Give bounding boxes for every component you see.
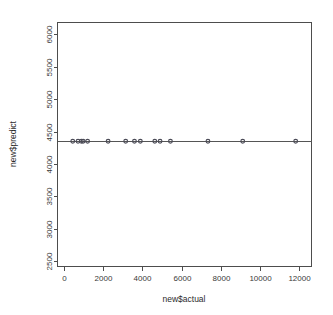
x-axis-title: new$actual <box>162 294 205 304</box>
x-tick-label: 2000 <box>95 274 113 283</box>
y-tick-label: 6000 <box>45 25 54 43</box>
x-tick-label: 12000 <box>288 274 311 283</box>
y-tick-label: 5500 <box>45 58 54 76</box>
plot-frame <box>58 23 312 267</box>
y-tick-label: 4500 <box>45 123 54 141</box>
x-axis-tick-labels: 020004000600080001000012000 <box>62 274 311 283</box>
y-tick-label: 3500 <box>45 187 54 205</box>
y-tick-label: 4000 <box>45 155 54 173</box>
x-tick-label: 8000 <box>213 274 231 283</box>
y-axis-title: new$predict <box>8 120 18 166</box>
y-tick-label: 5000 <box>45 90 54 108</box>
y-tick-label: 2500 <box>45 252 54 270</box>
y-axis-tick-labels: 25003000350040004500500055006000 <box>45 25 54 270</box>
plot-box <box>58 23 312 267</box>
x-axis-ticks <box>65 267 300 271</box>
x-tick-label: 4000 <box>134 274 152 283</box>
y-tick-label: 3000 <box>45 220 54 238</box>
x-tick-label: 0 <box>62 274 67 283</box>
x-tick-label: 6000 <box>174 274 192 283</box>
chart-container: 020004000600080001000012000 250030003500… <box>0 0 333 315</box>
x-tick-label: 10000 <box>249 274 272 283</box>
y-axis-ticks <box>54 35 58 262</box>
scatter-plot: 020004000600080001000012000 250030003500… <box>0 0 333 315</box>
